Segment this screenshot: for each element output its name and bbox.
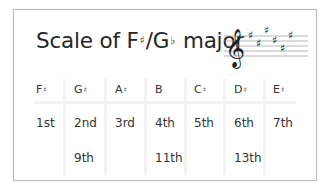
note-name: E♯ (273, 83, 284, 96)
header-separator (34, 101, 296, 104)
sharp-icon: ♯ (280, 42, 285, 55)
scale-degree: 6th (234, 116, 254, 130)
column-separator (223, 79, 226, 175)
extension-degree: 11th (155, 151, 183, 165)
scale-degree: 3rd (115, 116, 135, 130)
scale-degree: 7th (273, 116, 293, 130)
note-name: A♯ (115, 83, 127, 96)
sharp-icon: ♯ (248, 29, 253, 42)
flat-symbol: ♭ (170, 34, 175, 47)
extension-degree: 9th (74, 151, 94, 165)
column-separator (263, 79, 266, 175)
title-slash: /G (146, 28, 170, 53)
column-separator (144, 79, 147, 175)
scale-degree: 4th (155, 116, 175, 130)
column-separator (184, 79, 187, 175)
note-name: G♯ (74, 83, 87, 96)
column-separator (104, 79, 107, 175)
scale-card: Scale of F♯/G♭ major 𝄞 ♯ ♯ ♯ ♯ ♯ ♯ F♯ 1s (13, 9, 317, 181)
column-separator (63, 79, 66, 175)
scale-table: F♯ 1st G♯ 2nd 9th A♯ 3rd B 4th 11th C♯ 5… (28, 74, 304, 180)
treble-clef-icon: 𝄞 (225, 27, 245, 69)
sharp-icon: ♯ (256, 37, 261, 50)
key-signature-staff-icon: 𝄞 ♯ ♯ ♯ ♯ ♯ ♯ (222, 17, 308, 69)
note-name: C♯ (194, 83, 206, 96)
scale-degree: 2nd (74, 116, 97, 130)
note-name: B (155, 83, 164, 96)
sharp-icon: ♯ (264, 24, 269, 37)
extension-degree: 13th (234, 151, 262, 165)
sharp-symbol: ♯ (140, 34, 145, 47)
scale-degree: 5th (194, 116, 214, 130)
note-name: D♯ (234, 83, 247, 96)
note-name: F♯ (36, 83, 47, 96)
sharp-icon: ♯ (272, 34, 277, 47)
page-title: Scale of F♯/G♭ major (36, 28, 244, 53)
title-prefix: Scale of F (36, 28, 139, 53)
sharp-icon: ♯ (288, 29, 293, 42)
scale-degree: 1st (36, 116, 55, 130)
